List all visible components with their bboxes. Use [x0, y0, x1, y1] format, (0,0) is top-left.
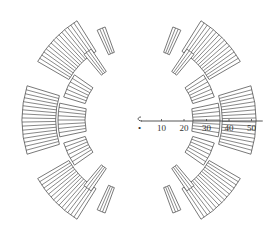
- scale-tick-label: 10: [157, 123, 167, 133]
- segment-outer-right-mid: [219, 86, 256, 154]
- diagram-canvas: 1020304050 •: [0, 0, 278, 240]
- segment-thin-right-top-b: [164, 27, 181, 55]
- scale-tick-label: 40: [225, 123, 235, 133]
- scale-origin-hook: [138, 117, 142, 121]
- segment-inner-left-mid: [58, 103, 86, 137]
- segment-thin-left-bot-b: [97, 185, 114, 213]
- scale-tick-label: 50: [247, 123, 257, 133]
- scale-origin-label: •: [138, 123, 141, 133]
- segment-outer-right-top: [182, 21, 240, 80]
- segmented-ring-diagram: 1020304050 •: [0, 0, 278, 240]
- segment-thin-left-top-a: [84, 49, 106, 75]
- scale-tick-label: 30: [202, 123, 212, 133]
- segment-outer-left-bottom: [38, 161, 96, 220]
- segment-thin-right-top-a: [172, 49, 194, 75]
- scale-tick-label: 20: [180, 123, 190, 133]
- segment-thin-left-top-b: [97, 27, 114, 55]
- segment-outer-left-mid: [22, 86, 59, 154]
- segment-thin-right-bot-b: [164, 185, 181, 213]
- segment-outer-right-bottom: [182, 161, 240, 220]
- segment-thin-left-bot-a: [84, 165, 106, 191]
- segment-thin-right-bot-a: [172, 165, 194, 191]
- segment-outer-left-top: [38, 21, 96, 80]
